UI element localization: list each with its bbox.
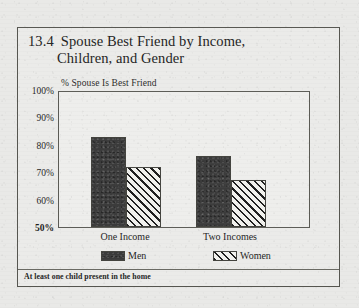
plot-area [58,91,310,228]
legend-label-men: Men [128,250,146,261]
y-axis-caption: % Spouse Is Best Friend [61,78,157,88]
y-tick-70%: 70% [20,168,54,178]
footnote-divider [18,269,339,270]
legend-swatch-men-icon [101,251,125,261]
figure-title-line-1: Spouse Best Friend by Income, [61,33,246,49]
x-label-two-incomes: Two Incomes [203,231,257,242]
y-tick-90%: 90% [20,113,54,123]
y-tick-100%: 100% [20,86,54,96]
y-tick-80%: 80% [20,141,54,151]
chart-legend: MenWomen [58,250,310,266]
figure-number: 13.4 [28,33,54,49]
bar-one-income-women [126,167,161,227]
bars-layer [59,92,309,227]
bar-two-incomes-men [196,156,231,227]
figure-footnote: At least one child present in the home [24,272,151,281]
x-label-one-income: One Income [100,231,149,242]
legend-item-women[interactable]: Women [213,250,271,261]
bar-one-income-men [91,137,126,227]
legend-label-women: Women [240,250,271,261]
y-tick-50%: 50% [20,223,54,233]
bar-two-incomes-women [231,180,266,227]
y-axis-tick-labels: 50%60%70%80%90%100% [18,91,54,228]
x-axis-tick-labels: One IncomeTwo Incomes [58,231,310,245]
legend-item-men[interactable]: Men [101,250,146,261]
figure-title-line-2: Children, and Gender [57,50,328,67]
y-tick-60%: 60% [20,196,54,206]
figure-title: 13.4Spouse Best Friend by Income, Childr… [28,33,328,67]
legend-swatch-women-icon [213,251,237,261]
